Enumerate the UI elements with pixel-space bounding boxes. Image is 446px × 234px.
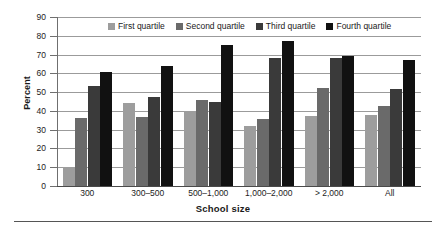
x-axis-title: School size	[0, 203, 446, 214]
bar	[390, 89, 402, 186]
chart-figure: Percent First quartile Second quartile T…	[0, 0, 446, 234]
bar	[305, 116, 317, 186]
bar	[269, 58, 281, 186]
y-axis-tick-label: 50	[16, 88, 46, 97]
y-axis-tick	[50, 92, 57, 93]
bar	[123, 103, 135, 186]
bar	[365, 115, 377, 186]
bar	[209, 102, 221, 187]
y-axis-tick-label: 10	[16, 163, 46, 172]
y-axis-tick	[50, 55, 57, 56]
bar	[330, 58, 342, 186]
bar	[75, 118, 87, 186]
figure-bottom-rule	[14, 221, 432, 222]
y-axis-tick	[50, 111, 57, 112]
bar-group	[239, 17, 300, 186]
y-axis-tick	[50, 17, 57, 18]
bar	[342, 56, 354, 186]
bar	[378, 106, 390, 186]
bar	[317, 88, 329, 186]
bar	[161, 66, 173, 186]
bar	[221, 45, 233, 186]
bar	[88, 86, 100, 186]
y-axis-tick	[50, 167, 57, 168]
y-axis-tick-label: 0	[16, 182, 46, 191]
bar	[184, 111, 196, 186]
y-axis-tick-label: 80	[16, 32, 46, 41]
bar	[63, 167, 75, 186]
bar	[196, 100, 208, 186]
y-axis-tick	[50, 148, 57, 149]
y-axis-tick	[50, 73, 57, 74]
bar	[136, 117, 148, 186]
bar	[244, 126, 256, 186]
y-axis-tick-label: 40	[16, 107, 46, 116]
bar-group	[118, 17, 179, 186]
y-axis-tick	[50, 186, 57, 187]
x-axis-line	[57, 186, 421, 187]
y-axis-tick-label: 30	[16, 126, 46, 135]
bar	[257, 119, 269, 186]
bar-group	[57, 17, 118, 186]
bar-group	[299, 17, 360, 186]
bar	[403, 60, 415, 186]
y-axis-tick	[50, 130, 57, 131]
y-axis-tick	[50, 36, 57, 37]
y-axis-tick-label: 20	[16, 144, 46, 153]
bar-group	[178, 17, 239, 186]
bar	[148, 97, 160, 186]
y-axis-tick-label: 70	[16, 51, 46, 60]
bar-group	[360, 17, 421, 186]
y-axis-tick-label: 60	[16, 69, 46, 78]
bar	[282, 41, 294, 186]
bar	[100, 72, 112, 186]
x-axis-tick-label: All	[350, 189, 431, 198]
y-axis-tick-label: 90	[16, 13, 46, 22]
